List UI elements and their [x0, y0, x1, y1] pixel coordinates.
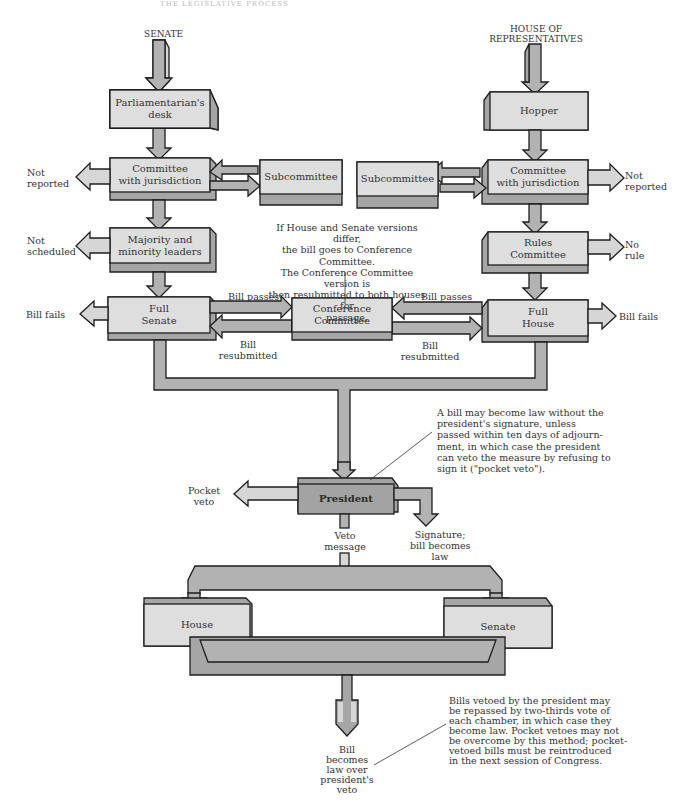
arrow-to-president: [333, 462, 355, 480]
senate-entry-label: SENATE: [144, 29, 183, 40]
house-no-rule-arrow: [588, 234, 624, 260]
house-entry-label: HOUSE OF REPRESENTATIVES: [486, 24, 586, 44]
rules-committee-label: RulesCommittee: [488, 232, 588, 265]
president-label: President: [298, 484, 394, 514]
arrow-to-house-committee: [523, 130, 547, 162]
house-not-reported-label: Notreported: [625, 170, 667, 192]
house-bill-resubmitted-label: Billresubmitted: [400, 340, 460, 362]
senate-bill-fails-label: Bill fails: [26, 309, 65, 320]
override-house-label: House: [144, 604, 250, 646]
veto-message-stub-top: [340, 514, 349, 528]
signature-label: Signature;bill becomeslaw: [410, 529, 470, 562]
senate-committee-label: Committeewith jurisdiction: [110, 158, 210, 192]
senate-leaders-label: Majority andminority leaders: [110, 228, 210, 263]
conference-committee-label: ConferenceCommittee: [292, 298, 392, 332]
arrow-to-rules: [523, 204, 547, 234]
arrow-to-full-house: [523, 273, 547, 300]
senate-entry-arrow: [146, 40, 172, 92]
pocket-veto-label: Pocketveto: [184, 485, 224, 507]
house-bill-fails-arrow: [588, 303, 616, 329]
senate-bill-passes-label: Bill passes: [228, 291, 279, 302]
house-subcommittee-label: Subcommittee: [357, 162, 438, 196]
override-senate-label: Senate: [444, 606, 552, 648]
pocket-veto-arrow: [234, 481, 298, 506]
house-not-reported-arrow: [588, 164, 624, 191]
subcommittee-to-house-arrow: [440, 178, 486, 198]
signature-arrow: [394, 488, 438, 526]
override-note-leader: [374, 724, 446, 765]
full-senate-label: FullSenate: [108, 297, 210, 333]
house-bill-fails-label: Bill fails: [619, 311, 658, 322]
bill-becomes-law-label: Billbecomeslaw overpresident'sveto: [317, 745, 377, 795]
running-header: THE LEGISLATIVE PROCESS: [160, 0, 289, 8]
house-committee-label: Committeewith jurisdiction: [488, 160, 588, 194]
senate-bill-resubmitted-label: Billresubmitted: [218, 339, 278, 361]
president-note: A bill may become law without thepreside…: [437, 407, 637, 474]
house-bill-passes-label: Bill passes: [421, 291, 472, 302]
override-note: Bills vetoed by the president maybe repa…: [449, 696, 649, 766]
house-no-rule-label: Norule: [625, 239, 644, 261]
veto-message-label: Vetomessage: [320, 530, 370, 552]
hopper-label: Hopper: [490, 92, 588, 130]
president-note-leader: [370, 432, 432, 480]
senate-subcommittee-label: Subcommittee: [260, 160, 342, 194]
full-house-label: FullHouse: [488, 300, 588, 336]
senate-not-scheduled-label: Notscheduled: [27, 235, 76, 257]
veto-message-stub-bottom: [340, 553, 349, 567]
parliamentarian-label: Parliamentarian'sdesk: [110, 90, 210, 128]
senate-not-reported-label: Notreported: [27, 167, 69, 189]
